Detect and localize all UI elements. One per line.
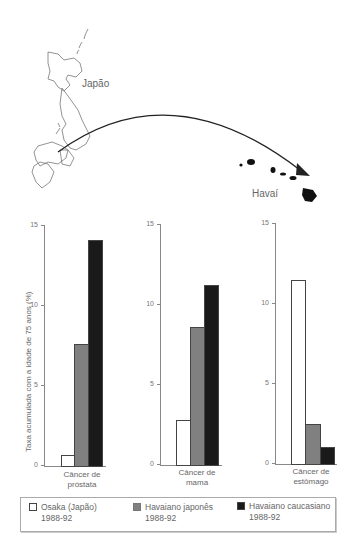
bar-hawaii-caucasian-breast xyxy=(204,285,219,466)
category-label: Câncer demama xyxy=(162,468,232,488)
y-axis-label: Taxa acumulada com a idade de 75 anos (%… xyxy=(24,291,33,452)
tick-label: 15 xyxy=(140,220,154,227)
legend-item-hawaiian-japanese: Havaiano japonês1988-92 xyxy=(133,502,213,524)
swatch-black-icon xyxy=(237,502,245,510)
bar-hawaii-japanese-stomach xyxy=(305,424,321,465)
tick-label: 10 xyxy=(140,300,154,307)
category-label: Câncer depróstata xyxy=(47,470,117,490)
y-axis xyxy=(44,225,45,466)
hawaii-label: Havaí xyxy=(252,188,278,199)
bar-osaka-prostate xyxy=(61,455,75,467)
japan-hawaii-map xyxy=(0,0,356,210)
tick-label: 5 xyxy=(255,379,269,386)
swatch-gray-icon xyxy=(133,503,141,511)
tick-label: 15 xyxy=(255,219,269,226)
japan-outline-icon xyxy=(32,29,90,188)
bar-hawaii-caucasian-stomach xyxy=(320,447,335,465)
tick-label: 0 xyxy=(24,461,38,468)
tick-label: 5 xyxy=(24,381,38,388)
legend: Osaka (Japão)1988-92 Havaiano japonês198… xyxy=(20,497,336,532)
legend-item-hawaiian-caucasian: Havaiano caucasiano1988-92 xyxy=(237,501,330,523)
legend-item-osaka: Osaka (Japão)1988-92 xyxy=(29,502,97,524)
tick-label: 10 xyxy=(24,301,38,308)
tick-label: 0 xyxy=(255,459,269,466)
bar-hawaii-japanese-prostate xyxy=(74,344,89,467)
swatch-white-icon xyxy=(29,503,37,511)
tick-label: 15 xyxy=(24,221,38,228)
japan-label: Japão xyxy=(82,78,109,89)
bar-hawaii-japanese-breast xyxy=(190,327,205,466)
category-label: Câncer deestômago xyxy=(276,467,346,487)
bar-hawaii-caucasian-prostate xyxy=(88,240,103,467)
tick-label: 0 xyxy=(140,460,154,467)
y-axis xyxy=(275,223,276,464)
tick-label: 10 xyxy=(255,299,269,306)
y-axis xyxy=(160,224,161,465)
tick-label: 5 xyxy=(140,380,154,387)
migration-arrow xyxy=(58,115,300,170)
bar-osaka-breast xyxy=(176,420,191,466)
bar-osaka-stomach xyxy=(291,280,306,465)
